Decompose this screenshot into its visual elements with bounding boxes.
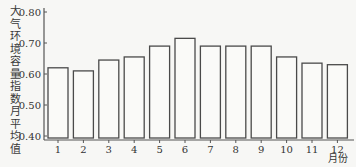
x-tick-label: 9: [258, 144, 264, 155]
x-tick-label: 1: [55, 144, 61, 155]
y-tick-label: 0.80: [19, 7, 41, 18]
bar: [200, 46, 220, 138]
x-tick-label: 10: [280, 144, 293, 155]
y-tick-label: 0.60: [19, 69, 41, 80]
x-tick-label: 3: [106, 144, 112, 155]
x-tick-label: 4: [131, 144, 137, 155]
x-tick-label: 11: [306, 144, 319, 155]
bar: [48, 68, 68, 138]
x-tick-label: 7: [207, 144, 213, 155]
x-tick-label: 6: [182, 144, 188, 155]
bar: [73, 71, 93, 138]
bar: [124, 57, 144, 138]
y-tick-label: 0.40: [19, 131, 41, 142]
y-tick-label: 0.50: [19, 100, 41, 111]
bar: [150, 46, 170, 138]
x-tick-label: 5: [156, 144, 162, 155]
bar: [327, 65, 347, 138]
x-tick-label: 8: [233, 144, 239, 155]
bar: [251, 46, 271, 138]
x-tick-label: 2: [80, 144, 86, 155]
bar: [302, 63, 322, 138]
y-tick-label: 0.70: [19, 38, 41, 49]
bar: [226, 46, 246, 138]
x-axis-label: 月份: [328, 153, 348, 164]
bar: [175, 38, 195, 138]
bar-chart: 0.400.500.600.700.80123456789101112月份: [0, 0, 356, 167]
bar: [99, 60, 119, 138]
bar: [277, 57, 297, 138]
